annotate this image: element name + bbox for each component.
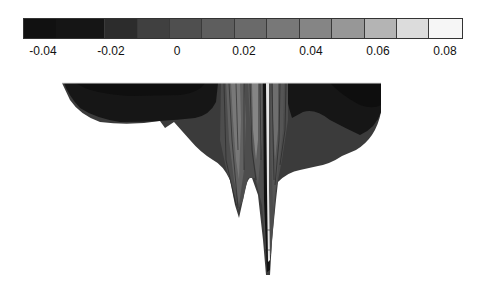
contour-plot <box>0 0 489 291</box>
